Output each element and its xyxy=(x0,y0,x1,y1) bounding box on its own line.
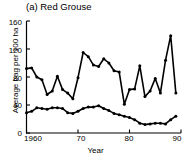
data-point xyxy=(87,106,90,109)
data-point xyxy=(143,95,146,98)
chart-figure: (a) Red Grouse Average bag per 100 ha 16… xyxy=(0,0,191,161)
data-point xyxy=(82,107,85,110)
data-point xyxy=(118,113,121,116)
data-point xyxy=(128,88,131,91)
data-point xyxy=(92,64,95,67)
data-point xyxy=(107,109,110,112)
data-point xyxy=(133,87,136,90)
data-point xyxy=(102,107,105,110)
data-point xyxy=(25,67,28,70)
data-point xyxy=(66,92,69,95)
data-point xyxy=(92,106,95,109)
data-point xyxy=(113,69,116,72)
data-point xyxy=(61,107,64,110)
data-point xyxy=(113,112,116,115)
data-point xyxy=(138,122,141,125)
data-point xyxy=(97,65,100,68)
data-point xyxy=(123,115,126,118)
data-point xyxy=(35,76,38,79)
data-point xyxy=(97,104,100,107)
data-point xyxy=(87,55,90,58)
data-point xyxy=(149,90,152,93)
data-point xyxy=(159,92,162,95)
data-point xyxy=(118,71,121,74)
data-point xyxy=(149,122,152,125)
data-point xyxy=(77,110,80,113)
data-point xyxy=(174,92,177,95)
data-point xyxy=(77,76,80,79)
data-point xyxy=(25,111,28,114)
data-point xyxy=(30,66,33,69)
data-point xyxy=(164,59,167,62)
data-point xyxy=(40,107,43,110)
data-point xyxy=(51,90,54,93)
plot-area xyxy=(0,0,191,161)
data-point xyxy=(82,51,85,54)
data-point xyxy=(56,75,59,78)
data-point xyxy=(61,88,64,91)
data-point xyxy=(143,123,146,126)
data-point xyxy=(46,108,49,111)
series-line-lower xyxy=(27,106,176,125)
data-point xyxy=(56,106,59,109)
data-point xyxy=(128,116,131,119)
data-point xyxy=(107,62,110,65)
data-point xyxy=(66,111,69,114)
data-point xyxy=(154,122,157,125)
series-lower xyxy=(25,104,177,126)
data-point xyxy=(102,57,105,60)
data-series-layer xyxy=(25,34,177,126)
data-point xyxy=(133,118,136,121)
data-point xyxy=(35,106,38,109)
data-point xyxy=(169,34,172,37)
data-point xyxy=(40,78,43,81)
data-point xyxy=(154,77,157,80)
series-line-upper xyxy=(27,36,176,105)
data-point xyxy=(123,103,126,106)
data-point xyxy=(174,115,177,118)
data-point xyxy=(169,118,172,121)
series-upper xyxy=(25,34,177,106)
data-point xyxy=(51,106,54,109)
data-point xyxy=(164,122,167,125)
data-point xyxy=(71,97,74,100)
x-axis-title: Year xyxy=(0,146,191,155)
data-point xyxy=(30,110,33,113)
data-point xyxy=(71,112,74,115)
data-point xyxy=(159,122,162,125)
data-point xyxy=(46,93,49,96)
data-point xyxy=(138,64,141,67)
